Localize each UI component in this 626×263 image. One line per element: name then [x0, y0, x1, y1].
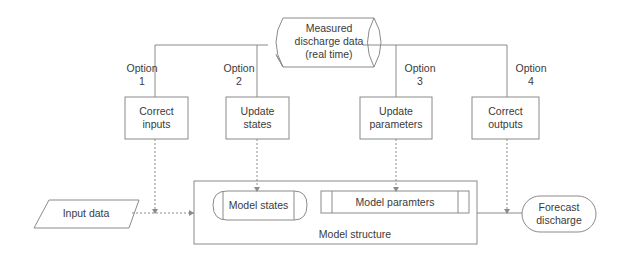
correct-inputs-label: Correct inputs	[125, 105, 188, 131]
option-3-label: Option 3	[400, 62, 440, 88]
model-states-label: Model states	[223, 199, 294, 212]
forecast-discharge-label: Forecast discharge	[522, 201, 596, 227]
option-4-label: Option 4	[511, 62, 551, 88]
input-data-label: Input data	[40, 207, 132, 220]
option-1-label: Option 1	[122, 62, 162, 88]
option-2-label: Option 2	[219, 62, 259, 88]
update-states-label: Update states	[226, 105, 289, 131]
model-parameters-label: Model paramters	[332, 196, 458, 209]
correct-outputs-label: Correct outputs	[472, 105, 539, 131]
source-cylinder-left	[276, 18, 283, 67]
source-label: Measured discharge data (real time)	[285, 22, 373, 61]
model-structure-label: Model structure	[300, 228, 410, 241]
arrow-input-icon	[189, 210, 194, 216]
update-parameters-label: Update parameters	[360, 105, 432, 131]
